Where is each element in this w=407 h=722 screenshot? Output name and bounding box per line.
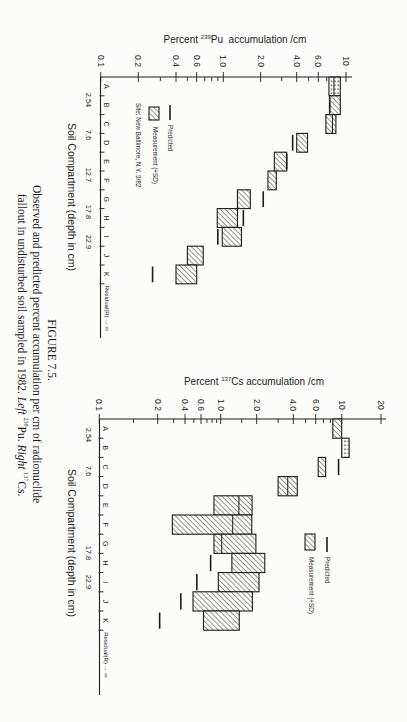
x-tick-label: 2.0 xyxy=(256,55,266,67)
caption-label: FIGURE 7.5. xyxy=(46,319,58,381)
measurement-bar xyxy=(268,171,276,190)
compartment-label: E xyxy=(102,503,109,508)
measurement-bar xyxy=(274,152,286,171)
x-tick-label: 10 xyxy=(341,56,351,66)
legend-measurement-hatch-icon xyxy=(305,534,315,550)
measurement-bar xyxy=(318,457,325,476)
compartment-label: G xyxy=(102,541,109,546)
compartment-label: D xyxy=(102,484,109,489)
caption-line-2: fallout in undisturbed soil sampled in 1… xyxy=(15,194,29,497)
compartment-label: J xyxy=(103,254,110,258)
measurement-bar xyxy=(172,515,251,534)
cs-plot-area: 0.10.20.40.61.02.04.06.01020ABCDEFGHIJKR… xyxy=(84,399,387,677)
legend-site-label: Site: New Baltimore, N.Y. 9/82 xyxy=(135,103,142,188)
measurement-bar xyxy=(330,96,341,115)
compartment-label: A xyxy=(102,426,109,431)
measurement-bar xyxy=(232,553,265,572)
measurement-bar xyxy=(214,534,256,553)
compartment-label: C xyxy=(102,464,109,469)
x-tick-label: 1.0 xyxy=(218,55,228,67)
x-tick-label: 0.6 xyxy=(196,399,206,411)
measurement-bar xyxy=(222,227,241,246)
compartment-label: A xyxy=(103,84,110,89)
measurement-bar xyxy=(203,611,239,630)
measurement-bar xyxy=(297,133,308,152)
legend-measurement-hatch-icon xyxy=(149,107,159,120)
pu-legend: Predicted Measurement (+SD) Site: New Ba… xyxy=(135,103,174,188)
pu-y-axis-title: Soil Compartment (depth in cm) xyxy=(66,123,78,271)
compartment-label: G xyxy=(103,196,110,201)
legend-measurement-label: Measurement (+SD) xyxy=(151,127,159,184)
legend-predicted-label: Predicted xyxy=(324,557,331,584)
figure-caption: FIGURE 7.5. Observed and predicted perce… xyxy=(15,185,58,503)
measurement-bar xyxy=(342,438,349,457)
pu-x-axis-title: Percent 239Pu accumulation /cm xyxy=(164,34,307,45)
pu-plot-area: 0.10.20.40.61.02.04.06.010ABCDEFGHIJKRes… xyxy=(84,55,352,331)
depth-label: 7.6 xyxy=(84,466,93,476)
compartment-label: B xyxy=(102,445,109,450)
x-tick-label: 10 xyxy=(337,400,347,410)
x-tick-label: 4.0 xyxy=(292,55,302,67)
compartment-label: F xyxy=(102,522,109,526)
measurement-bar xyxy=(193,592,252,611)
measurement-bar xyxy=(217,209,237,228)
cs-x-axis-title: Percent 137Cs accumulation /cm xyxy=(184,376,324,387)
x-tick-label: 6.0 xyxy=(311,399,321,411)
x-tick-label: 1.0 xyxy=(216,399,226,411)
measurement-bar xyxy=(214,496,252,515)
residual-label: Residual(R) → ∞ xyxy=(104,286,110,331)
depth-label: 22.9 xyxy=(84,235,93,250)
compartment-label: E xyxy=(103,159,110,164)
x-tick-label: 0.4 xyxy=(180,399,190,411)
pu-chart: Percent 239Pu accumulation /cm Soil Comp… xyxy=(66,34,352,338)
caption-line-1: Observed and predicted percent accumulat… xyxy=(30,185,43,503)
measurement-bar xyxy=(326,115,336,134)
cs-y-axis-title: Soil Compartment (depth in cm) xyxy=(66,469,78,617)
cs-legend: Predicted Measurement (+SD) xyxy=(305,534,331,614)
compartment-label: D xyxy=(103,140,110,145)
x-tick-label: 2.0 xyxy=(252,399,262,411)
compartment-label: K xyxy=(102,618,109,623)
measurement-bar xyxy=(218,573,259,592)
x-tick-label: 0.6 xyxy=(192,55,202,67)
depth-label: 22.9 xyxy=(84,575,93,590)
legend-measurement-label: Measurement (+SD) xyxy=(307,557,315,614)
compartment-label: C xyxy=(103,121,110,126)
x-tick-label: 0.1 xyxy=(94,399,104,411)
compartment-label: I xyxy=(103,236,110,238)
compartment-label: J xyxy=(102,600,109,604)
x-tick-label: 0.2 xyxy=(133,55,143,67)
compartment-label: H xyxy=(102,560,109,565)
measurement-bar xyxy=(187,246,203,265)
compartment-label: F xyxy=(103,178,110,182)
figure-7-5: Percent 239Pu accumulation /cm Soil Comp… xyxy=(0,0,407,722)
residual-label: Residual(R) → ∞ xyxy=(103,632,109,677)
depth-label: 2.54 xyxy=(84,93,93,108)
compartment-label: H xyxy=(103,215,110,220)
compartment-label: K xyxy=(103,272,110,277)
measurement-bar xyxy=(176,265,197,284)
x-tick-label: 4.0 xyxy=(288,399,298,411)
depth-label: 12.7 xyxy=(84,168,93,183)
x-tick-label: 6.0 xyxy=(313,55,323,67)
depth-label: 7.6 xyxy=(84,130,93,140)
legend-predicted-label: Predicted xyxy=(167,125,174,152)
depth-label: 17.8 xyxy=(84,205,93,220)
depth-label: 2.54 xyxy=(84,428,93,443)
measurement-bar xyxy=(329,77,340,96)
compartment-label: B xyxy=(103,103,110,108)
compartment-label: I xyxy=(102,581,109,583)
depth-label: 17.8 xyxy=(84,546,93,561)
measurement-bar xyxy=(333,419,342,438)
cs-chart: Percent 137Cs accumulation /cm Soil Comp… xyxy=(66,376,386,695)
x-tick-label: 0.2 xyxy=(153,399,163,411)
measurement-bar xyxy=(237,190,250,209)
x-tick-label: 0.4 xyxy=(171,55,181,67)
x-tick-label: 0.1 xyxy=(96,55,106,67)
x-tick-label: 20 xyxy=(376,400,386,410)
